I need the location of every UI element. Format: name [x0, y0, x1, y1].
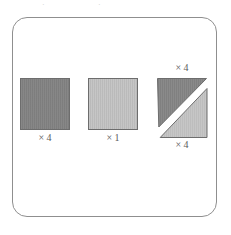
- split-square-label-below: × 4: [157, 139, 207, 151]
- shape-light-square: × 1: [88, 78, 138, 130]
- split-square-graphic: [157, 78, 207, 138]
- split-square-label-above: × 4: [157, 62, 207, 74]
- light-square-fill: [88, 78, 138, 130]
- light-square-label-below: × 1: [88, 132, 138, 144]
- shape-split-square: × 4 × 4: [157, 78, 207, 138]
- figure-root: · · × 4 × 1 × 4: [0, 0, 231, 235]
- dark-square-fill: [20, 78, 70, 130]
- top-text-artifact-1: ·: [42, 1, 45, 9]
- shape-dark-square: × 4: [20, 78, 70, 130]
- top-text-artifact-2: ·: [98, 1, 101, 9]
- dark-square-label-below: × 4: [20, 132, 70, 144]
